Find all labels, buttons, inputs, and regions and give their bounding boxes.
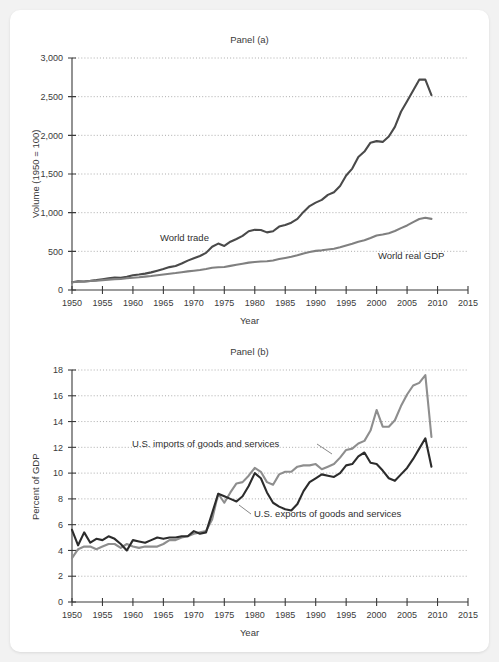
y-tick-label-2500: 2,500 xyxy=(40,92,63,102)
annotation-us-imports: U.S. imports of goods and services xyxy=(132,438,280,449)
x-tick-label-1985: 1985 xyxy=(275,610,295,620)
x-tick-label-1985: 1985 xyxy=(275,298,295,308)
series-line-0 xyxy=(72,375,431,558)
x-tick-label-1955: 1955 xyxy=(92,610,112,620)
y-tick-label-1000: 1,000 xyxy=(40,208,63,218)
x-tick-label-2010: 2010 xyxy=(428,298,448,308)
y-tick-label-3000: 3,000 xyxy=(40,53,63,63)
x-tick-label-2000: 2000 xyxy=(367,298,387,308)
y-tick-label-0: 0 xyxy=(58,597,63,607)
x-tick-label-2010: 2010 xyxy=(428,610,448,620)
series-line-1 xyxy=(72,438,431,550)
x-tick-label-1995: 1995 xyxy=(336,298,356,308)
x-tick-label-1975: 1975 xyxy=(214,610,234,620)
x-tick-label-1975: 1975 xyxy=(214,298,234,308)
annotation-us-exports: U.S. exports of goods and services xyxy=(254,508,402,519)
x-tick-label-2015: 2015 xyxy=(458,298,478,308)
panel-a-plot: 05001,0001,5002,0002,5003,00019501955196… xyxy=(10,28,489,328)
y-tick-label-2000: 2,000 xyxy=(40,131,63,141)
y-tick-label-4: 4 xyxy=(58,546,63,556)
x-tick-label-1980: 1980 xyxy=(245,298,265,308)
x-tick-label-1965: 1965 xyxy=(153,610,173,620)
x-tick-label-1990: 1990 xyxy=(306,610,326,620)
y-tick-label-8: 8 xyxy=(58,494,63,504)
y-tick-label-500: 500 xyxy=(48,247,63,257)
x-tick-label-1980: 1980 xyxy=(245,610,265,620)
x-tick-label-1960: 1960 xyxy=(123,298,143,308)
annotation-world-trade: World trade xyxy=(160,232,209,243)
y-tick-label-2: 2 xyxy=(58,571,63,581)
x-tick-label-1970: 1970 xyxy=(184,298,204,308)
x-tick-label-1965: 1965 xyxy=(153,298,173,308)
panel-b: Panel (b) Percent of GDP Year 0246810121… xyxy=(10,340,489,640)
x-tick-label-1995: 1995 xyxy=(336,610,356,620)
x-tick-label-1950: 1950 xyxy=(62,610,82,620)
annotation-us-imports-leader xyxy=(317,444,332,454)
panel-b-plot: 0246810121416181950195519601965197019751… xyxy=(10,340,489,640)
panel-a: Panel (a) Volume (1950 = 100) Year 05001… xyxy=(10,28,489,328)
y-tick-label-1500: 1,500 xyxy=(40,169,63,179)
x-tick-label-2005: 2005 xyxy=(397,610,417,620)
y-tick-label-18: 18 xyxy=(53,365,63,375)
y-tick-label-12: 12 xyxy=(53,443,63,453)
x-tick-label-1990: 1990 xyxy=(306,298,326,308)
x-tick-label-2015: 2015 xyxy=(458,610,478,620)
x-tick-label-1955: 1955 xyxy=(92,298,112,308)
y-tick-label-10: 10 xyxy=(53,468,63,478)
x-tick-label-1950: 1950 xyxy=(62,298,82,308)
x-tick-label-1960: 1960 xyxy=(123,610,143,620)
x-tick-label-1970: 1970 xyxy=(184,610,204,620)
figure-card: Panel (a) Volume (1950 = 100) Year 05001… xyxy=(10,10,489,652)
y-tick-label-16: 16 xyxy=(53,391,63,401)
y-tick-label-0: 0 xyxy=(58,285,63,295)
annotation-world-real-gdp: World real GDP xyxy=(378,250,444,261)
y-tick-label-14: 14 xyxy=(53,417,63,427)
y-tick-label-6: 6 xyxy=(58,520,63,530)
annotation-us-exports-leader xyxy=(239,505,251,514)
x-tick-label-2000: 2000 xyxy=(367,610,387,620)
x-tick-label-2005: 2005 xyxy=(397,298,417,308)
